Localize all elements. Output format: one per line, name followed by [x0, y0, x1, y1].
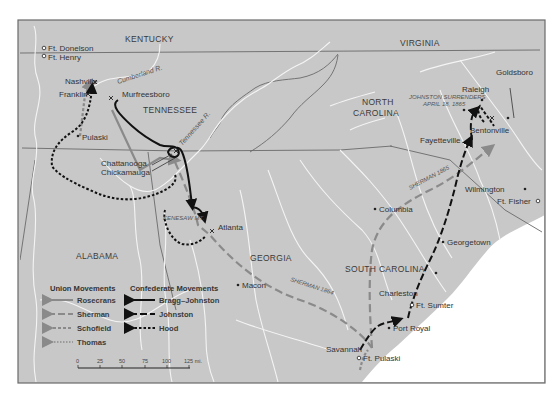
- label-north-carolina-2: CAROLINA: [353, 108, 399, 118]
- label-fayetteville: Fayetteville: [420, 136, 461, 145]
- label-ft-fisher: Ft. Fisher: [497, 197, 531, 206]
- svg-text:Schofield: Schofield: [77, 324, 112, 333]
- label-wilmington: Wilmington: [465, 185, 505, 194]
- legend-confederate-title: Confederate Movements: [130, 284, 218, 293]
- svg-text:Thomas: Thomas: [77, 338, 106, 347]
- label-chattanooga: Chattanooga: [101, 159, 147, 168]
- label-chickamauga: Chickamauga: [101, 168, 150, 177]
- civil-war-campaign-map: KENTUCKY VIRGINIA TENNESSEE NORTH CAROLI…: [0, 0, 558, 402]
- label-raleigh: Raleigh: [462, 85, 489, 94]
- svg-text:25: 25: [97, 358, 103, 364]
- label-ft-pulaski: Ft. Pulaski: [363, 354, 401, 363]
- label-surrender-line2: APRIL 18, 1865: [422, 101, 466, 107]
- svg-text:Hood: Hood: [159, 324, 179, 333]
- svg-text:Bragg–Johnston: Bragg–Johnston: [159, 296, 220, 305]
- label-nashville: Nashville: [65, 77, 98, 86]
- label-ft-henry: Ft. Henry: [48, 53, 81, 62]
- label-ft-sumter: Ft. Sumter: [416, 301, 454, 310]
- label-tennessee: TENNESSEE: [143, 105, 197, 115]
- label-franklin: Franklin: [59, 90, 87, 99]
- svg-text:100: 100: [162, 358, 171, 364]
- svg-text:Johnston: Johnston: [159, 310, 194, 319]
- label-atlanta: Atlanta: [218, 223, 243, 232]
- label-port-royal: Port Royal: [393, 324, 431, 333]
- label-georgetown: Georgetown: [447, 238, 491, 247]
- label-virginia: VIRGINIA: [400, 38, 440, 48]
- label-savannah: Savannah: [326, 345, 362, 354]
- svg-text:Sherman: Sherman: [77, 310, 110, 319]
- label-pulaski: Pulaski: [82, 133, 108, 142]
- label-ft-donelson: Ft. Donelson: [48, 44, 93, 53]
- label-south-carolina: SOUTH CAROLINA: [345, 264, 425, 274]
- label-murfreesboro: Murfreesboro: [122, 90, 170, 99]
- label-charleston: Charleston: [379, 289, 418, 298]
- svg-text:125 mi.: 125 mi.: [184, 358, 203, 364]
- label-macon: Macon: [242, 281, 266, 290]
- svg-text:50: 50: [119, 358, 125, 364]
- label-georgia: GEORGIA: [250, 253, 292, 263]
- legend-union-title: Union Movements: [50, 284, 115, 293]
- label-alabama: ALABAMA: [76, 251, 118, 261]
- label-bentonville: Bentonville: [470, 126, 510, 135]
- label-columbia: Columbia: [379, 205, 413, 214]
- label-kentucky: KENTUCKY: [125, 34, 174, 44]
- label-surrender-line1: JOHNSTON SURRENDERS: [408, 94, 486, 100]
- svg-text:75: 75: [142, 358, 148, 364]
- label-kenesaw-mt: KENESAW MT.: [163, 215, 205, 221]
- svg-text:0: 0: [76, 358, 79, 364]
- label-goldsboro: Goldsboro: [496, 68, 533, 77]
- label-north-carolina-1: NORTH: [362, 97, 394, 107]
- svg-text:Rosecrans: Rosecrans: [77, 296, 116, 305]
